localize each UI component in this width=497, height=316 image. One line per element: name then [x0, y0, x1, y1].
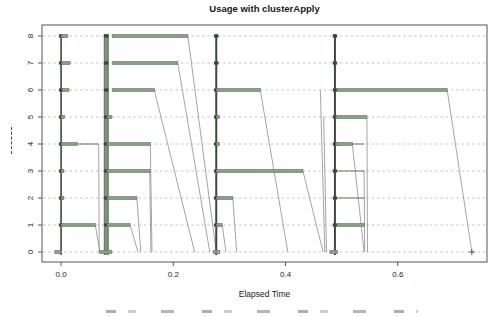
x-tick-label-0: 0.0 [56, 270, 68, 279]
compute-bar-node-1-seg-1 [107, 224, 130, 227]
y-tick-label-6: 6 [26, 87, 35, 92]
recv-line-16 [364, 171, 365, 252]
y-tick-label-2: 2 [26, 195, 35, 200]
y-tick-label-8: 8 [26, 33, 35, 38]
compute-bar-node-8-seg-0 [61, 35, 68, 38]
x-tick-label-3: 0.6 [392, 270, 404, 279]
compute-bar-node-1-seg-0 [61, 224, 95, 227]
compute-bar-node-8-seg-1 [112, 35, 188, 38]
recv-line-9 [222, 225, 226, 252]
compute-bar-node-3-seg-1 [107, 170, 150, 173]
compute-bar-node-0-seg-3 [330, 251, 338, 254]
compute-bar-node-2-seg-2 [216, 197, 233, 200]
recv-line-2 [130, 225, 138, 252]
send-dot-node-8 [333, 34, 337, 37]
compute-bar-node-4-seg-1 [77, 144, 98, 145]
send-dot-node-6 [333, 88, 337, 91]
send-dot-node-2 [333, 196, 337, 199]
compute-bar-node-6-seg-2 [216, 89, 260, 92]
compute-bar-node-6-seg-1 [112, 89, 154, 92]
send-dot-node-6 [104, 88, 108, 91]
compute-bar-node-7-seg-0 [62, 62, 70, 65]
y-tick-label-5: 5 [26, 114, 35, 119]
compute-bar-node-2-seg-0 [61, 197, 64, 200]
compute-bar-node-2-seg-3 [337, 198, 364, 199]
compute-bar-node-0-seg-1 [99, 251, 112, 254]
send-dot-node-7 [104, 61, 108, 64]
x-axis-title: Elapsed Time [42, 289, 487, 299]
compute-bar-node-3-seg-3 [337, 171, 364, 172]
compute-bar-node-3-seg-2 [216, 170, 303, 173]
y-tick-label-3: 3 [26, 168, 35, 173]
compute-bar-node-3-seg-0 [61, 170, 64, 173]
compute-bar-node-5-seg-2 [216, 116, 219, 119]
y-tick-label-4: 4 [26, 141, 35, 146]
x-tick-label-2: 0.4 [280, 270, 292, 279]
compute-bar-node-2-seg-1 [107, 197, 137, 200]
compute-bar-node-0-seg-0 [55, 251, 62, 254]
compute-bar-node-4-seg-3 [216, 143, 219, 146]
recv-line-7 [178, 63, 210, 252]
compute-bar-node-4-seg-4 [336, 143, 352, 146]
compute-bar-node-6-seg-3 [337, 89, 447, 92]
compute-bar-node-6-seg-0 [62, 89, 69, 92]
compute-bar-node-5-seg-0 [61, 116, 64, 119]
compute-bar-node-4-seg-5 [352, 144, 364, 145]
snow-usage-plot-figure: Usage with clusterApply 0123456780.00.20… [0, 0, 497, 316]
compute-bar-node-7-seg-1 [112, 62, 178, 65]
send-dot-node-7 [214, 61, 218, 64]
compute-bar-node-1-seg-3 [337, 224, 364, 227]
send-dot-node-8 [104, 34, 108, 37]
recv-line-12 [303, 171, 323, 252]
compute-bar-node-5-seg-1 [107, 116, 112, 119]
send-dot-node-7 [333, 61, 337, 64]
send-dot-node-8 [214, 34, 218, 37]
cropped-caption-fragment [106, 310, 418, 316]
compute-bar-node-5-seg-3 [336, 116, 367, 119]
send-dot-node-1 [333, 223, 337, 226]
y-tick-label-7: 7 [26, 60, 35, 65]
compute-bar-node-0-seg-2 [213, 251, 220, 254]
compute-bar-node-1-seg-2 [216, 224, 222, 227]
compute-bar-node-4-seg-0 [61, 143, 77, 146]
recv-line-1 [99, 144, 100, 252]
y-tick-label-0: 0 [26, 249, 35, 254]
plot-area: 0123456780.00.20.40.6 [0, 0, 497, 316]
recv-line-17 [367, 117, 368, 252]
y-tick-label-1: 1 [26, 222, 35, 227]
compute-bar-node-4-seg-2 [107, 143, 150, 146]
send-dot-node-3 [333, 169, 337, 172]
x-tick-label-1: 0.2 [168, 270, 180, 279]
